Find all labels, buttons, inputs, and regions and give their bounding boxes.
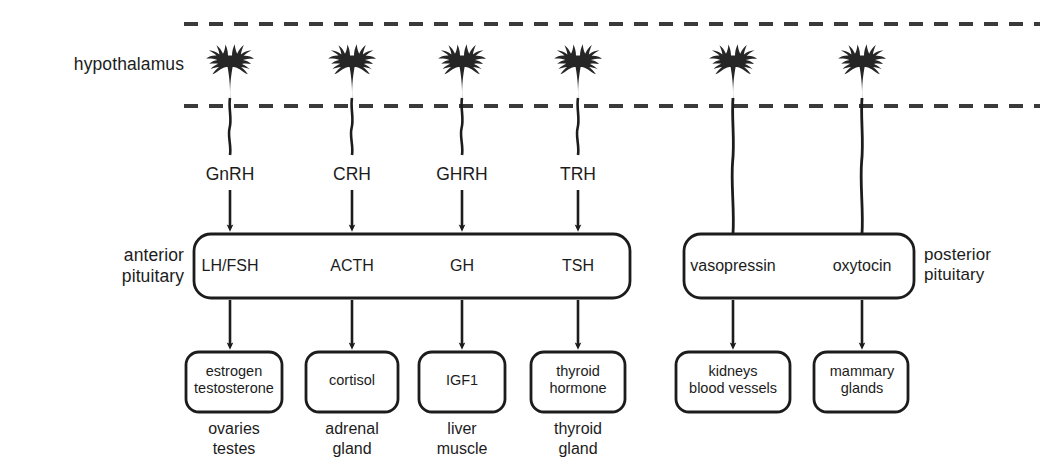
target-organ-label-kidneys-blood-vessels: kidneys blood vessels	[668, 363, 798, 397]
hypothalamus-label: hypothalamus	[14, 54, 184, 75]
neuron-gnrh	[206, 44, 254, 155]
pituitary-hormone-label-oxytocin: oxytocin	[797, 256, 927, 275]
target-hormone-label-igf1: IGF1	[407, 372, 517, 389]
target-hormone-label-cortisol: cortisol	[297, 372, 407, 389]
neuron-oxytocin	[838, 44, 886, 234]
pituitary-hormone-label-vasopressin: vasopressin	[668, 256, 798, 275]
neuron-trh	[554, 44, 602, 155]
neuron-crh	[328, 44, 376, 155]
releasing-hormone-label-crh: CRH	[292, 164, 412, 184]
releasing-hormone-label-gnrh: GnRH	[170, 164, 290, 184]
pituitary-hormone-label-gh: GH	[397, 256, 527, 275]
neuron-vasopressin	[709, 44, 757, 234]
target-organ-label-mammary-glands: mammary glands	[802, 363, 922, 397]
anterior-pituitary-label: anterior pituitary	[20, 245, 184, 287]
target-hormone-label-gonadal: estrogen testosterone	[179, 363, 289, 397]
releasing-hormone-label-ghrh: GHRH	[402, 164, 522, 184]
pituitary-hormone-label-tsh: TSH	[513, 256, 643, 275]
posterior-pituitary-label: posterior pituitary	[924, 245, 1050, 285]
neuron-ghrh	[438, 44, 486, 155]
releasing-hormone-label-trh: TRH	[518, 164, 638, 184]
organ-caption-thyroid-gland: thyroid gland	[508, 419, 648, 458]
pituitary-hormone-label-lh-fsh: LH/FSH	[165, 256, 295, 275]
hypothalamic-pituitary-axis-diagram: hypothalamus anterior pituitary posterio…	[0, 0, 1050, 474]
target-hormone-label-thyroid-hormone: thyroid hormone	[523, 363, 633, 397]
